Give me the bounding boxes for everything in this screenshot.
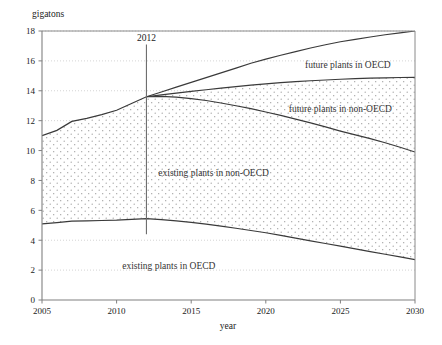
x-tick-label-2020: 2020 bbox=[257, 306, 276, 316]
y-tick-label-14: 14 bbox=[26, 86, 36, 96]
series-label-0: existing plants in OECD bbox=[122, 261, 215, 271]
y-tick-label-18: 18 bbox=[26, 26, 36, 36]
y-tick-label-0: 0 bbox=[31, 295, 36, 305]
y-tick-label-2: 2 bbox=[31, 265, 36, 275]
series-label-2: future plants in non-OECD bbox=[289, 104, 392, 114]
y-tick-label-4: 4 bbox=[31, 236, 36, 246]
y-axis-title: gigatons bbox=[32, 9, 64, 19]
x-axis-title: year bbox=[220, 321, 237, 331]
chart-canvas: 024681012141618 200520102015202020252030… bbox=[0, 0, 442, 345]
x-tick-label-2005: 2005 bbox=[33, 306, 52, 316]
y-tick-label-12: 12 bbox=[26, 116, 35, 126]
x-tick-label-2025: 2025 bbox=[331, 306, 350, 316]
x-tick-label-2010: 2010 bbox=[108, 306, 127, 316]
y-tick-label-8: 8 bbox=[31, 176, 36, 186]
y-tick-label-6: 6 bbox=[31, 206, 36, 216]
series-label-3: future plants in OECD bbox=[305, 60, 391, 70]
y-tick-label-16: 16 bbox=[26, 56, 36, 66]
y-tick-label-10: 10 bbox=[26, 146, 36, 156]
energy-emissions-area-chart: 024681012141618 200520102015202020252030… bbox=[0, 0, 442, 345]
x-tick-label-2015: 2015 bbox=[182, 306, 201, 316]
series-label-1: existing plants in non-OECD bbox=[158, 168, 269, 178]
year-marker-label: 2012 bbox=[137, 33, 156, 43]
x-tick-label-2030: 2030 bbox=[406, 306, 425, 316]
